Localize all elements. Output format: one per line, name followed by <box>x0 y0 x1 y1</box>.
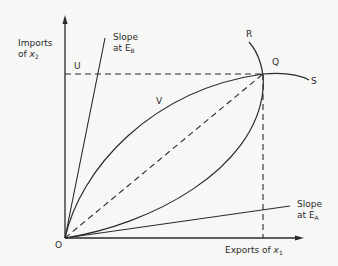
origin-label: O <box>55 240 62 251</box>
point-v-label: V <box>156 96 162 107</box>
point-s-label: S <box>311 76 317 87</box>
x-axis-label: Exports of x1 <box>225 245 283 258</box>
point-q-label: Q <box>272 57 279 68</box>
point-r-label: R <box>246 29 252 40</box>
point-u-label: U <box>74 61 81 72</box>
y-axis-label-line2: of x2 <box>18 49 53 62</box>
x-axis-arrow-icon <box>295 236 304 241</box>
dashed-diagonal-ray <box>65 74 263 238</box>
slope-ea-line <box>65 206 290 238</box>
offer-curve-upper <box>65 73 309 238</box>
slope-ea-label: Slope at EA <box>297 199 322 223</box>
slope-eb-label: Slope at EB <box>113 32 138 56</box>
y-axis-label: Imports of x2 <box>18 38 53 62</box>
slope-eb-line <box>65 38 105 238</box>
offer-curve-lower <box>65 42 263 238</box>
y-axis-label-line1: Imports <box>18 38 53 49</box>
y-axis-arrow-icon <box>63 15 68 24</box>
